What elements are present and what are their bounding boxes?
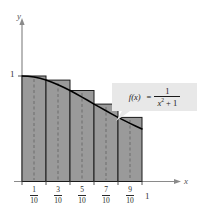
- tick-denominator: 10: [71, 197, 93, 205]
- tick-numerator: 5: [71, 186, 93, 194]
- formula-denominator: x2 + 1: [154, 97, 180, 107]
- tick-numerator: 9: [119, 186, 141, 194]
- y-axis-label: y: [17, 12, 21, 21]
- x-axis-end-label-one: 1: [145, 192, 150, 201]
- tick-denominator: 10: [23, 197, 45, 205]
- formula-callout-box: f(x) = 1 x2 + 1: [112, 83, 197, 111]
- tick-numerator: 1: [23, 186, 45, 194]
- function-formula: f(x) = 1 x2 + 1: [129, 87, 180, 108]
- tick-denominator: 10: [119, 197, 141, 205]
- formula-numerator: 1: [154, 87, 180, 97]
- formula-function-name: f(x): [129, 93, 141, 102]
- x-tick-label-2: 3 10: [47, 186, 69, 205]
- x-axis-arrowhead: [174, 179, 181, 184]
- tick-denominator: 10: [47, 197, 69, 205]
- x-axis-label: x: [184, 177, 188, 186]
- riemann-sum-figure: y x 1 1 1 10 3 10 5 10 7 10 9 10: [0, 0, 203, 216]
- x-axis-tick-labels: 1 10 3 10 5 10 7 10 9 10: [22, 186, 142, 212]
- formula-denominator-plus: + 1: [166, 98, 177, 108]
- formula-equals-sign: =: [147, 93, 152, 102]
- formula-fraction: 1 x2 + 1: [154, 87, 180, 108]
- formula-denominator-exponent: 2: [161, 97, 164, 103]
- tick-numerator: 7: [95, 186, 117, 194]
- tick-denominator: 10: [95, 197, 117, 205]
- x-tick-label-3: 5 10: [71, 186, 93, 205]
- x-tick-label-4: 7 10: [95, 186, 117, 205]
- x-tick-label-1: 1 10: [23, 186, 45, 205]
- x-tick-label-5: 9 10: [119, 186, 141, 205]
- y-axis-tick-label-one: 1: [10, 70, 15, 79]
- tick-numerator: 3: [47, 186, 69, 194]
